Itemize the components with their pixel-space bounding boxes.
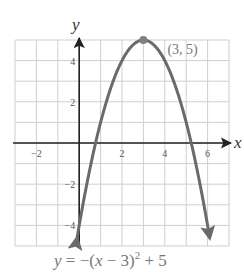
- vertex-point: [139, 36, 147, 44]
- y-tick-label: −2: [65, 179, 76, 190]
- parabola-chart: −224642−2−4 (3, 5) x y y = −(x − 3)2 + 5: [0, 0, 244, 272]
- x-tick-label: 4: [162, 148, 167, 159]
- vertex-annotation: (3, 5): [139, 36, 198, 58]
- x-axis-label: x: [233, 133, 242, 152]
- y-tick-label: −4: [65, 220, 76, 231]
- x-tick-label: −2: [31, 148, 42, 159]
- y-tick-label: 2: [70, 97, 75, 108]
- y-axis-label: y: [70, 15, 80, 34]
- x-tick-label: 6: [205, 148, 210, 159]
- y-tick-label: 4: [70, 56, 75, 67]
- x-tick-label: 2: [120, 148, 125, 159]
- vertex-label: (3, 5): [167, 42, 198, 58]
- equation-caption: y = −(x − 3)2 + 5: [52, 249, 167, 270]
